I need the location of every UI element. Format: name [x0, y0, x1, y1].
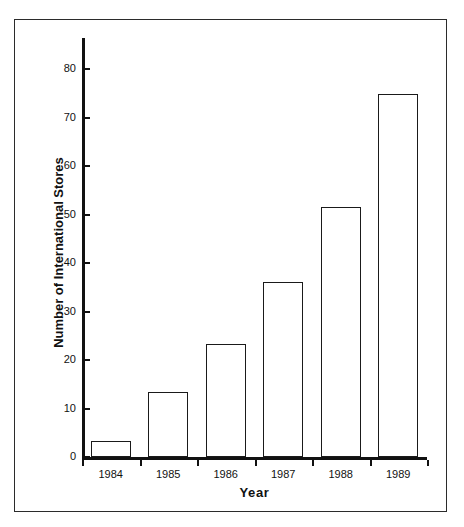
y-axis-tick	[85, 408, 90, 410]
y-axis-tick-label-text: 0	[52, 451, 76, 462]
y-axis-title: Number of International Stores	[51, 103, 66, 403]
x-axis-tick	[82, 460, 84, 466]
bar-1985	[148, 392, 188, 457]
y-axis-tick-label-text: 80	[52, 63, 76, 74]
bar-1988	[321, 207, 361, 457]
y-axis-tick	[85, 165, 90, 167]
x-axis-tick	[427, 460, 429, 466]
x-axis-tick-label-1987: 1987	[255, 468, 313, 480]
x-axis-title: Year	[82, 485, 427, 500]
x-axis-tick	[312, 460, 314, 466]
y-axis-tick-label: 10	[48, 403, 76, 414]
x-axis-tick	[255, 460, 257, 466]
x-axis-tick	[197, 460, 199, 466]
y-axis-tick	[85, 68, 90, 70]
x-axis-tick-label-1984: 1984	[82, 468, 140, 480]
y-axis-tick	[85, 262, 90, 264]
y-axis-tick	[85, 117, 90, 119]
y-axis-tick	[85, 359, 90, 361]
x-axis-tick	[140, 460, 142, 466]
bar-1989	[378, 94, 418, 457]
y-axis-tick-label: 0	[48, 451, 76, 462]
y-axis-tick	[85, 456, 90, 458]
bar-1987	[263, 282, 303, 457]
y-axis-tick-label-text: 10	[52, 403, 76, 414]
x-axis-tick-label-1989: 1989	[370, 468, 428, 480]
x-axis-tick-label-1988: 1988	[312, 468, 370, 480]
y-axis-line	[82, 38, 85, 460]
y-axis-tick	[85, 214, 90, 216]
bar-1984	[91, 441, 131, 457]
y-axis-tick-label: 80	[48, 63, 76, 74]
chart-figure: 01020304050607080 1984198519861987198819…	[0, 0, 464, 527]
plot-area: 01020304050607080 1984198519861987198819…	[0, 0, 464, 527]
x-axis-tick-label-1986: 1986	[197, 468, 255, 480]
x-axis-tick-label-1985: 1985	[140, 468, 198, 480]
x-axis-tick	[370, 460, 372, 466]
bar-1986	[206, 344, 246, 457]
y-axis-tick	[85, 311, 90, 313]
